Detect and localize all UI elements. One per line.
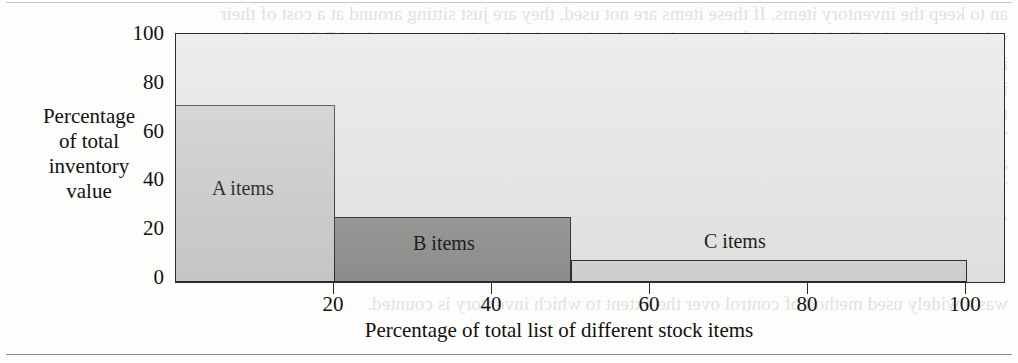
bar-c-items[interactable] — [571, 260, 966, 282]
bar-label-a-items: A items — [212, 177, 274, 200]
x-axis-label: Percentage of total list of different st… — [209, 318, 909, 343]
page-rule-bottom — [6, 354, 1012, 355]
bar-label-b-items: B items — [413, 232, 475, 255]
plot-area: A items B items C items — [175, 33, 1005, 283]
bar-label-c-items: C items — [704, 230, 766, 253]
x-tick-label-20: 20 — [303, 292, 363, 317]
x-tick-label-60: 60 — [619, 292, 679, 317]
x-tick-label-40: 40 — [461, 292, 521, 317]
x-tick-label-100: 100 — [935, 292, 995, 317]
x-tick-label-80: 80 — [777, 292, 837, 317]
abc-analysis-bar-chart: Percentage of total inventory value 100 … — [0, 0, 1018, 363]
